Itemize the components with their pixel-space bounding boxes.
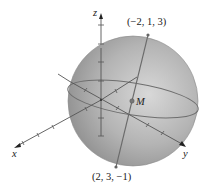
point-M <box>130 99 134 103</box>
sphere-diagram <box>0 0 206 192</box>
z-axis-label: z <box>93 8 97 19</box>
point-bottom-label: (2, 3, −1) <box>92 172 131 183</box>
point-top-label: (−2, 1, 3) <box>127 17 166 28</box>
x-axis-label: x <box>12 149 17 160</box>
x-axis-outer <box>17 117 70 146</box>
point-top <box>146 33 149 36</box>
z-axis-arrow-icon <box>99 13 103 19</box>
point-bottom <box>114 165 117 168</box>
point-M-label: M <box>136 97 145 108</box>
y-axis-label: y <box>183 149 188 160</box>
